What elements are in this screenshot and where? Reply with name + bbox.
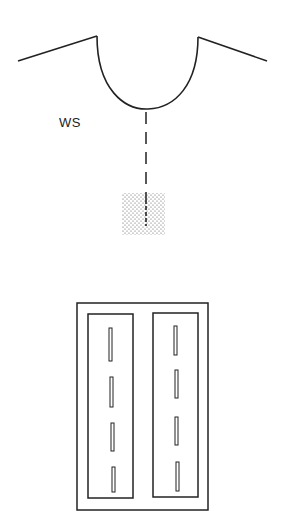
outer-frame bbox=[77, 303, 208, 510]
slot bbox=[109, 328, 112, 361]
surface-line-left bbox=[18, 36, 97, 61]
slot bbox=[111, 423, 114, 451]
slot bbox=[175, 370, 178, 398]
plan-view-figure bbox=[77, 303, 208, 510]
depression-curve bbox=[97, 36, 198, 109]
ws-label: WS bbox=[59, 115, 81, 130]
surface-line-right bbox=[198, 37, 267, 61]
slot bbox=[110, 377, 113, 407]
slot bbox=[176, 462, 179, 491]
cross-section-figure bbox=[18, 36, 267, 235]
slot bbox=[175, 417, 178, 445]
slot bbox=[174, 326, 177, 355]
stippled-region bbox=[122, 193, 165, 235]
diagram-canvas bbox=[0, 0, 289, 517]
slot bbox=[112, 467, 115, 492]
